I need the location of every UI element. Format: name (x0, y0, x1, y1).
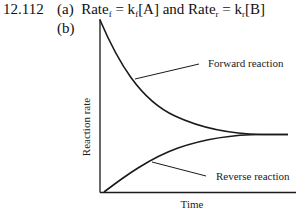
reverse-reaction-curve (104, 135, 288, 193)
forward-reaction-curve (100, 20, 288, 135)
reverse-leader-line (152, 162, 206, 176)
x-axis-label: Time (181, 198, 204, 210)
reverse-reaction-label: Reverse reaction (216, 170, 290, 182)
forward-leader-line (135, 64, 199, 79)
forward-reaction-label: Forward reaction (208, 57, 284, 69)
y-axis-label: Reaction rate (80, 98, 92, 156)
rate-chart: Forward reaction Reverse reaction Time R… (0, 0, 308, 216)
